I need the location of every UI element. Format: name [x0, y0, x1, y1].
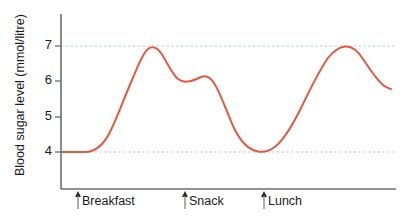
event-marker-breakfast: Breakfast: [75, 191, 135, 209]
y-tick-label-6: 6: [45, 72, 52, 87]
blood-sugar-chart: Blood sugar level (mmol/litre) 7 6 5 4 B…: [0, 0, 404, 219]
y-axis-label: Blood sugar level (mmol/litre): [13, 14, 27, 176]
y-tick-label-7: 7: [45, 37, 52, 52]
event-marker-snack: Snack: [182, 191, 224, 209]
y-tick-label-5: 5: [45, 108, 52, 123]
event-label-lunch: Lunch: [268, 194, 302, 208]
blood-sugar-curve: [62, 46, 391, 152]
event-label-breakfast: Breakfast: [82, 194, 135, 208]
y-tick-label-4: 4: [45, 143, 52, 158]
chart-canvas: Blood sugar level (mmol/litre) 7 6 5 4 B…: [0, 0, 404, 219]
event-label-snack: Snack: [189, 194, 224, 208]
event-marker-lunch: Lunch: [261, 191, 302, 209]
